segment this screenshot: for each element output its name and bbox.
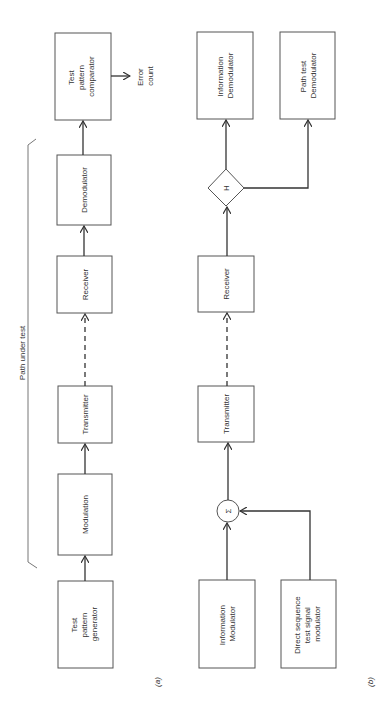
svg-text:Modulation: Modulation bbox=[81, 495, 90, 534]
hybrid-symbol: H bbox=[222, 185, 231, 191]
block-transmitter-a: Transmitter bbox=[58, 386, 112, 443]
block-diagram: Path under test Test pattern generator M… bbox=[0, 0, 376, 708]
block-test-pattern-generator: Test pattern generator bbox=[58, 581, 113, 668]
arrow-ds-mod-to-summer bbox=[240, 511, 310, 580]
error-count-label: Error count bbox=[136, 65, 155, 86]
sigma-symbol: Σ bbox=[224, 508, 233, 513]
arrow-hybrid-to-path-test-demod bbox=[244, 120, 308, 188]
block-test-pattern-comparator: Test pattern comparator bbox=[55, 33, 111, 120]
svg-text:Receiver: Receiver bbox=[81, 268, 90, 300]
hybrid-splitter: H bbox=[208, 169, 244, 206]
svg-text:Receiver: Receiver bbox=[222, 268, 231, 300]
caption-b: (b) bbox=[366, 677, 375, 687]
summing-junction: Σ bbox=[217, 500, 239, 522]
block-demodulator-a: Demodulator bbox=[57, 155, 111, 225]
svg-text:Information Modulator: Information Modulator bbox=[218, 603, 237, 645]
svg-text:Information Demodulato: Information Demodulator bbox=[216, 52, 235, 98]
block-transmitter-b: Transmitter bbox=[198, 386, 254, 442]
path-under-test-bracket bbox=[28, 139, 37, 568]
block-path-test-demodulator: Path test Demodulator bbox=[280, 32, 335, 119]
panel-b: Information Modulator Direct sequence te… bbox=[197, 32, 375, 687]
block-information-demodulator: Information Demodulator bbox=[197, 32, 253, 119]
block-modulation: Modulation bbox=[58, 474, 112, 555]
svg-text:Transmitter: Transmitter bbox=[81, 394, 90, 434]
svg-text:Path test Demodulator: Path test Demodulator bbox=[299, 52, 318, 98]
panel-a: Path under test Test pattern generator M… bbox=[18, 33, 162, 687]
path-under-test-label: Path under test bbox=[18, 325, 27, 380]
block-direct-sequence-modulator: Direct sequence test signal modulator bbox=[281, 580, 336, 668]
block-information-modulator: Information Modulator bbox=[199, 580, 255, 668]
block-receiver-b: Receiver bbox=[198, 256, 254, 312]
caption-a: (a) bbox=[153, 677, 162, 687]
svg-text:Transmitter: Transmitter bbox=[222, 394, 231, 434]
block-receiver-a: Receiver bbox=[57, 256, 112, 313]
svg-text:Demodulator: Demodulator bbox=[80, 167, 89, 213]
